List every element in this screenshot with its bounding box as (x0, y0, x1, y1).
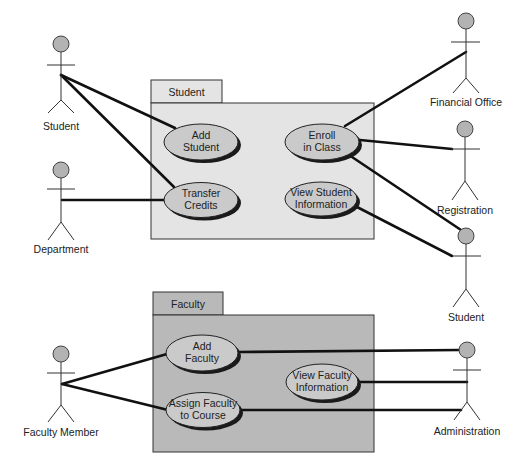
diagram-canvas: Student Faculty Add Student Transfer Cre… (0, 0, 524, 476)
actor-faculty-member-label: Faculty Member (23, 426, 99, 438)
use-case-enroll-line2: in Class (303, 141, 340, 153)
actor-department-label: Department (34, 243, 89, 255)
package-student-body (151, 103, 374, 239)
actor-student-left[interactable] (47, 36, 75, 113)
actor-registration-label: Registration (437, 204, 493, 216)
use-case-view-faculty-info-line1: View Faculty (292, 369, 352, 381)
use-case-transfer-credits-line2: Credits (184, 199, 217, 211)
actor-student-right-label: Student (448, 311, 484, 323)
actor-financial-office[interactable] (451, 13, 480, 93)
package-faculty-label: Faculty (171, 298, 206, 310)
use-case-add-faculty-line2: Faculty (185, 352, 220, 364)
use-case-view-faculty-info-line2: Information (296, 381, 349, 393)
actor-administration-label: Administration (434, 425, 501, 437)
assoc-faculty-member-assign-faculty (62, 384, 168, 410)
use-case-add-student-line2: Student (183, 141, 219, 153)
use-case-view-student-info-line2: Information (295, 198, 348, 210)
actor-faculty-member[interactable] (47, 346, 75, 422)
actor-head-icon (53, 36, 69, 52)
actor-head-icon (53, 162, 69, 178)
use-case-assign-faculty-line2: to Course (180, 409, 226, 421)
actor-student-left-label: Student (43, 120, 79, 132)
actor-head-icon (53, 346, 69, 362)
use-case-transfer-credits-line1: Transfer (182, 187, 221, 199)
use-case-assign-faculty-line1: Assign Faculty (169, 397, 238, 409)
use-case-diagram: Student Faculty Add Student Transfer Cre… (0, 0, 524, 476)
actor-registration[interactable] (451, 121, 480, 200)
use-case-add-student-line1: Add (192, 129, 211, 141)
use-case-view-student-info-line1: View Student (290, 186, 352, 198)
actor-head-icon (457, 121, 473, 137)
use-case-enroll-line1: Enroll (309, 129, 336, 141)
use-case-add-faculty-line1: Add (193, 340, 212, 352)
package-student-label: Student (168, 86, 204, 98)
actor-student-right[interactable] (452, 228, 481, 307)
assoc-enroll-financial-office (345, 52, 466, 126)
actor-head-icon (458, 228, 474, 244)
assoc-faculty-member-add-faculty (62, 354, 167, 384)
actor-head-icon (458, 13, 474, 29)
actor-head-icon (459, 342, 475, 358)
actor-financial-office-label: Financial Office (430, 96, 502, 108)
